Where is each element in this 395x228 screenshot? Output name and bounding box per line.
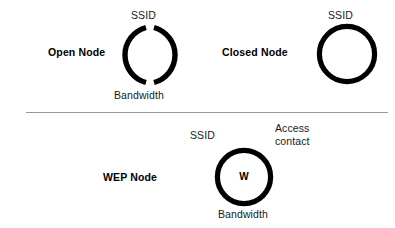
closed-node-title: Closed Node — [222, 46, 288, 58]
wep-node-ssid-label: SSID — [190, 129, 215, 142]
figure-canvas: Open Node SSID Bandwidth Closed Node SSI… — [0, 0, 395, 228]
open-circle-split-arcs-icon — [117, 22, 183, 88]
wep-node-inner-letter: W — [214, 172, 274, 182]
access-contact-line-2: contact — [275, 135, 310, 148]
closed-node-glyph — [316, 23, 378, 85]
wep-node-glyph: W — [214, 147, 274, 207]
open-node-title: Open Node — [48, 46, 105, 58]
open-node-glyph — [117, 22, 183, 88]
closed-node-ssid-label: SSID — [328, 9, 353, 22]
wep-node-access-contact-label: Access contact — [275, 122, 310, 147]
open-node-ssid-label: SSID — [131, 9, 156, 22]
access-contact-line-1: Access — [275, 122, 310, 135]
open-node-bandwidth-label: Bandwidth — [114, 89, 164, 102]
section-divider — [26, 112, 388, 113]
closed-circle-ring-icon — [316, 23, 378, 85]
wep-node-bandwidth-label: Bandwidth — [218, 208, 268, 221]
wep-node-title: WEP Node — [103, 171, 157, 183]
